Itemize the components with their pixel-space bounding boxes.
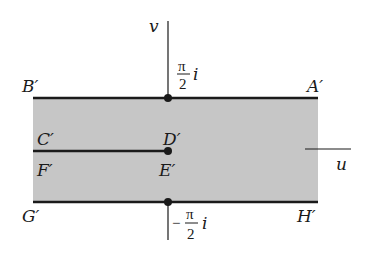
bottom-tick-denominator: 2 [187,226,195,242]
bottom-tick-suffix: i [202,213,207,233]
point-top [164,94,172,102]
top-tick-numerator: π [178,58,186,74]
label-h-prime: H′ [296,206,316,226]
v-axis-label: v [149,16,159,36]
label-f-prime: F′ [36,160,53,180]
bottom-tick-label: − π 2 i [172,206,207,242]
label-c-prime: C′ [37,129,54,149]
point-bottom [164,198,172,206]
bottom-tick-numerator: π [186,206,194,222]
label-e-prime: E′ [158,160,175,180]
top-tick-label: π 2 i [177,58,198,92]
label-b-prime: B′ [21,76,38,96]
strip-diagram: v u B′ A′ C′ D′ F′ E′ G′ H′ π 2 i − π 2 … [0,0,375,256]
label-a-prime: A′ [305,76,323,96]
label-d-prime: D′ [162,129,181,149]
label-g-prime: G′ [22,206,40,226]
bottom-tick-sign: − [172,215,180,231]
u-axis-label: u [336,154,347,174]
top-tick-denominator: 2 [179,76,187,92]
top-tick-suffix: i [193,64,198,84]
